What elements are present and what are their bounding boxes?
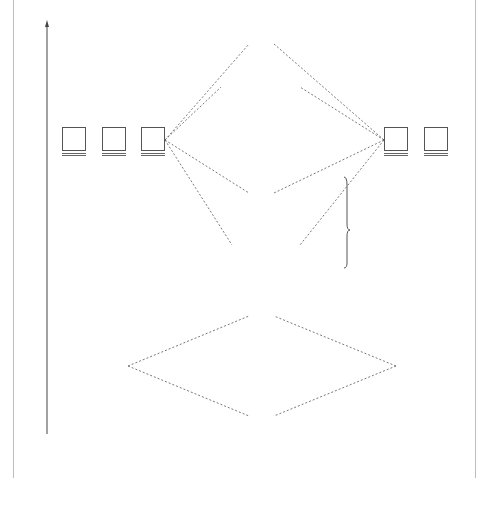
orbital-underline: [62, 153, 86, 156]
orbital-box-left-2py: [102, 127, 126, 151]
reversal-bracket: [344, 177, 350, 268]
orbital-underline: [102, 153, 126, 156]
connection-lines: [0, 0, 489, 508]
orbital-underline: [141, 153, 165, 156]
orbital-box-right-2px: [384, 127, 408, 151]
energy-arrowhead-icon: [45, 20, 49, 27]
orbital-box-right-2py: [424, 127, 448, 151]
orbital-underline: [384, 153, 408, 156]
orbital-underline: [424, 153, 448, 156]
orbital-box-left-2pz: [141, 127, 165, 151]
orbital-box-left-2px: [62, 127, 86, 151]
